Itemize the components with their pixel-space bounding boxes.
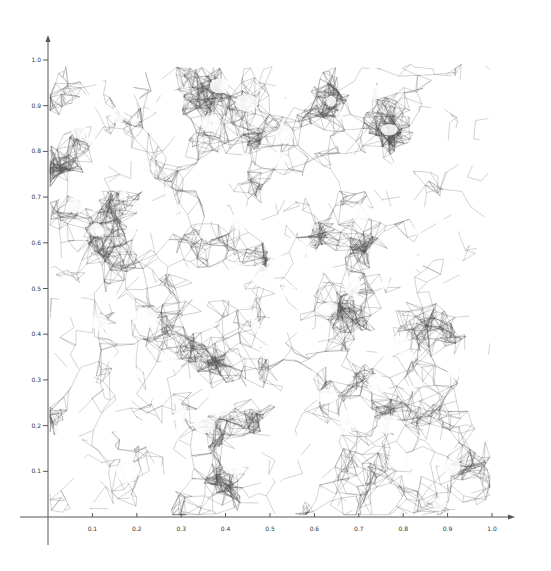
mesh-void bbox=[210, 78, 230, 93]
mesh-void bbox=[240, 436, 251, 446]
mesh-void bbox=[368, 379, 390, 393]
mesh-void bbox=[351, 203, 370, 223]
mesh-void bbox=[133, 201, 145, 212]
y-tick-label: 0.1 bbox=[31, 467, 41, 474]
mesh-void bbox=[377, 415, 399, 434]
x-axis-arrow-icon bbox=[508, 515, 515, 520]
mesh-void bbox=[116, 460, 138, 483]
mesh-void bbox=[401, 352, 416, 362]
mesh-void bbox=[380, 280, 389, 289]
mesh-void bbox=[249, 311, 255, 319]
mesh-void bbox=[389, 451, 411, 470]
mesh-void bbox=[150, 166, 156, 171]
mesh-void bbox=[381, 124, 398, 136]
mesh-void bbox=[413, 228, 421, 235]
mesh-void bbox=[427, 85, 435, 94]
mesh-void bbox=[433, 498, 446, 511]
mesh-void bbox=[359, 335, 376, 350]
mesh-void bbox=[119, 364, 126, 371]
mesh-plot: 0.10.20.30.40.50.60.70.80.91.0 0.10.20.3… bbox=[0, 0, 551, 571]
x-tick-label: 0.5 bbox=[265, 525, 275, 532]
mesh-void bbox=[206, 393, 233, 416]
mesh-void bbox=[236, 94, 259, 111]
mesh-void bbox=[154, 441, 168, 451]
mesh-void bbox=[173, 95, 185, 109]
mesh-void bbox=[201, 116, 220, 132]
mesh-void bbox=[327, 354, 343, 366]
mesh-void bbox=[228, 262, 246, 285]
mesh-edges bbox=[50, 64, 490, 515]
mesh-void bbox=[57, 420, 74, 430]
x-axis-ticks: 0.10.20.30.40.50.60.70.80.91.0 bbox=[88, 513, 497, 532]
mesh-void bbox=[288, 363, 302, 376]
mesh-void bbox=[468, 359, 477, 366]
mesh-void bbox=[166, 203, 181, 214]
mesh-void bbox=[175, 406, 188, 420]
mesh-void bbox=[276, 269, 284, 275]
mesh-void bbox=[92, 205, 99, 212]
mesh-void bbox=[86, 486, 99, 496]
mesh-void bbox=[259, 346, 277, 360]
mesh-void bbox=[66, 198, 84, 213]
x-tick-label: 0.1 bbox=[88, 525, 98, 532]
mesh-void bbox=[322, 302, 338, 314]
mesh-void bbox=[375, 337, 394, 356]
y-tick-label: 0.5 bbox=[31, 285, 41, 292]
mesh-void bbox=[400, 192, 411, 202]
mesh-void bbox=[91, 314, 109, 330]
mesh-void bbox=[83, 446, 89, 454]
mesh-void bbox=[296, 455, 303, 461]
y-tick-label: 1.0 bbox=[31, 56, 41, 63]
x-tick-label: 0.7 bbox=[354, 525, 364, 532]
mesh-void bbox=[344, 275, 360, 296]
mesh-void bbox=[439, 464, 447, 471]
mesh-void bbox=[337, 425, 351, 435]
mesh-void bbox=[461, 90, 472, 100]
mesh-void bbox=[335, 111, 343, 119]
mesh-void bbox=[442, 445, 454, 453]
mesh-void bbox=[60, 275, 71, 286]
mesh-void bbox=[343, 500, 359, 510]
mesh-void bbox=[388, 251, 403, 263]
mesh-void bbox=[311, 254, 334, 273]
mesh-void bbox=[251, 320, 260, 332]
mesh-void bbox=[194, 417, 216, 433]
x-tick-label: 0.9 bbox=[443, 525, 453, 532]
mesh-void bbox=[447, 369, 461, 378]
mesh-void bbox=[85, 137, 96, 145]
mesh-void bbox=[146, 109, 154, 115]
y-tick-label: 0.3 bbox=[31, 376, 41, 383]
mesh-void bbox=[114, 423, 132, 434]
mesh-void bbox=[219, 214, 231, 226]
mesh-void bbox=[269, 254, 286, 270]
mesh-void bbox=[459, 298, 472, 309]
mesh-void bbox=[326, 96, 336, 107]
y-tick-label: 0.6 bbox=[31, 239, 41, 246]
mesh-void bbox=[294, 79, 312, 96]
mesh-void bbox=[328, 392, 338, 401]
mesh-void bbox=[236, 210, 251, 219]
y-axis-arrow-icon bbox=[46, 35, 51, 42]
mesh-void bbox=[404, 385, 416, 392]
network-mesh bbox=[50, 64, 490, 515]
x-tick-label: 0.8 bbox=[398, 525, 408, 532]
mesh-void bbox=[111, 107, 125, 123]
x-tick-label: 0.6 bbox=[310, 525, 320, 532]
mesh-void bbox=[65, 437, 83, 457]
mesh-void bbox=[133, 308, 157, 329]
mesh-void bbox=[95, 228, 104, 236]
mesh-void bbox=[119, 190, 127, 200]
mesh-void bbox=[130, 117, 138, 126]
x-tick-label: 0.4 bbox=[221, 525, 231, 532]
y-tick-label: 0.2 bbox=[31, 422, 41, 429]
mesh-void bbox=[268, 300, 275, 306]
mesh-void bbox=[436, 218, 448, 233]
mesh-void bbox=[81, 338, 93, 348]
mesh-void bbox=[389, 181, 405, 193]
x-tick-label: 0.2 bbox=[132, 525, 142, 532]
mesh-void bbox=[163, 428, 180, 443]
mesh-void bbox=[126, 226, 137, 235]
mesh-void bbox=[241, 153, 249, 161]
mesh-void bbox=[171, 361, 182, 370]
mesh-void bbox=[109, 356, 118, 363]
